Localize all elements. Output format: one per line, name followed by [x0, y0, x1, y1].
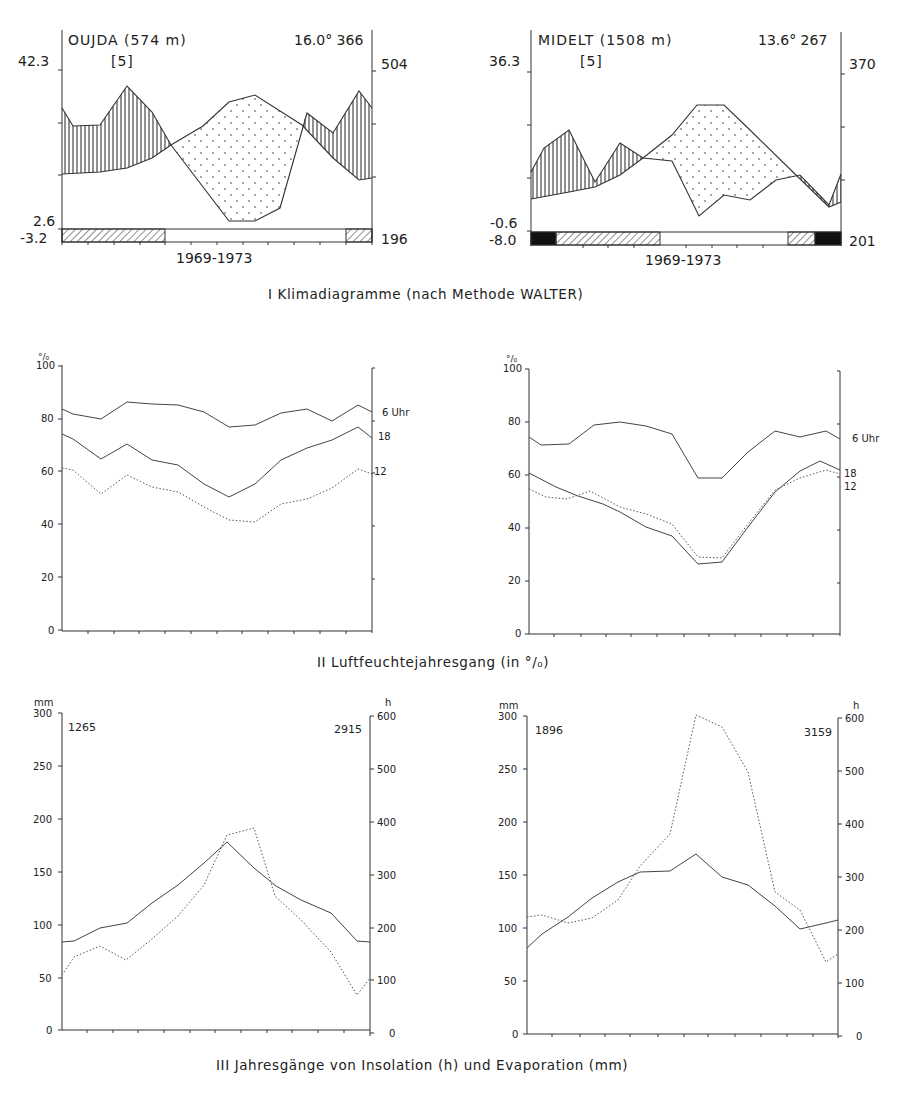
years-count-midelt: [5]	[580, 53, 603, 69]
y-tick-80: 80	[41, 413, 54, 424]
series-label-18-oujda: 18	[378, 431, 391, 442]
y2-tick-400: 400	[845, 819, 864, 830]
y-tick-20: 20	[41, 572, 54, 583]
series-label-12-midelt: 12	[844, 481, 857, 492]
y-tick-50: 50	[504, 976, 517, 987]
caption-humidity: II Luftfeuchtejahresgang (in °/₀)	[317, 654, 549, 670]
y-tick-150: 150	[33, 867, 52, 878]
y-tick-0: 0	[48, 625, 54, 636]
y2-tick-0: 0	[389, 1028, 395, 1039]
mean-values-midelt: 13.6° 267	[758, 32, 827, 48]
mean-values-oujda: 16.0° 366	[294, 32, 363, 48]
y2-tick-0: 0	[856, 1031, 862, 1042]
y-tick-20: 20	[508, 575, 521, 586]
y-tick-0: 0	[515, 628, 521, 639]
climate-diagram-oujda: OUJDA (574 m) [5] 16.0° 366 42.3 2.6 -3.…	[18, 30, 408, 266]
y-tick-60: 60	[508, 469, 521, 480]
y2-tick-500: 500	[845, 766, 864, 777]
y-tick-200: 200	[33, 814, 52, 825]
left-unit-mm-oujda: mm	[34, 697, 53, 708]
y-tick-200: 200	[498, 817, 517, 828]
right-unit-h-oujda: h	[385, 697, 391, 708]
right-top-label-oujda: 504	[381, 56, 408, 72]
y-tick-50: 50	[39, 973, 52, 984]
period-oujda: 1969-1973	[176, 250, 252, 266]
y-tick-100: 100	[36, 360, 55, 371]
insol-total-oujda-label: 2915	[334, 723, 362, 736]
max-temp-label-midelt: 36.3	[489, 53, 520, 69]
y2-tick-200: 200	[845, 925, 864, 936]
series-label-6uhr-oujda: 6 Uhr	[382, 407, 410, 418]
y2-tick-400: 400	[377, 817, 396, 828]
y2-tick-600: 600	[845, 713, 864, 724]
humidity-chart-oujda: °/₀ 100 80 60 40 20 0 6 Uhr 18 12	[36, 352, 410, 636]
insolation-chart-midelt: mm 300 250 200 150 100 50 0 h 600 500 40…	[498, 700, 864, 1042]
abs-min-label-midelt: -8.0	[489, 232, 516, 248]
right-bottom-label-midelt: 201	[849, 233, 876, 249]
series-label-6uhr-midelt: 6 Uhr	[852, 433, 880, 444]
y-tick-0: 0	[512, 1029, 518, 1040]
y-tick-300: 300	[33, 708, 52, 719]
y-tick-60: 60	[41, 466, 54, 477]
years-count-oujda: [5]	[111, 53, 134, 69]
right-top-label-midelt: 370	[849, 56, 876, 72]
left-unit-mm-midelt: mm	[499, 700, 518, 711]
y-tick-40: 40	[508, 522, 521, 533]
min-temp-label-oujda: 2.6	[33, 213, 55, 229]
y-tick-100: 100	[498, 923, 517, 934]
y2-tick-300: 300	[377, 870, 396, 881]
y-tick-150: 150	[498, 870, 517, 881]
evap-total-midelt: 1896	[535, 724, 563, 737]
series-label-12-oujda: 12	[374, 466, 387, 477]
caption-climate-diagrams: I Klimadiagramme (nach Methode WALTER)	[268, 286, 583, 302]
y2-tick-200: 200	[377, 923, 396, 934]
right-bottom-label-oujda: 196	[381, 231, 408, 247]
max-temp-label-oujda: 42.3	[18, 53, 49, 69]
series-label-18-midelt: 18	[844, 468, 857, 479]
humidity-chart-midelt: °/₀ 100 80 60 40 20 0 6 Uhr 18 12	[503, 354, 880, 639]
y-tick-0: 0	[46, 1025, 52, 1036]
y2-tick-100: 100	[377, 975, 396, 986]
y2-tick-100: 100	[845, 978, 864, 989]
y-tick-100: 100	[33, 920, 52, 931]
min-temp-label-midelt: -0.6	[490, 215, 517, 231]
y2-tick-600: 600	[377, 711, 396, 722]
station-name-oujda: OUJDA (574 m)	[68, 32, 187, 48]
y-tick-40: 40	[41, 519, 54, 530]
y-tick-250: 250	[498, 764, 517, 775]
y-tick-250: 250	[33, 761, 52, 772]
insolation-chart-oujda: mm 300 250 200 150 100 50 0 h 600 500 40…	[33, 697, 396, 1039]
y-tick-80: 80	[508, 416, 521, 427]
insol-total-midelt: 3159	[804, 726, 832, 739]
period-midelt: 1969-1973	[645, 252, 721, 268]
evap-total-oujda: 1265	[68, 721, 96, 734]
right-unit-h-midelt: h	[853, 700, 859, 711]
caption-insolation-evaporation: III Jahresgänge von Insolation (h) und E…	[216, 1057, 628, 1073]
y-tick-300: 300	[498, 711, 517, 722]
y2-tick-300: 300	[845, 872, 864, 883]
station-name-midelt: MIDELT (1508 m)	[538, 32, 672, 48]
climate-diagram-midelt: MIDELT (1508 m) [5] 13.6° 267 36.3 -0.6 …	[489, 30, 876, 268]
abs-min-label-oujda: -3.2	[20, 230, 47, 246]
y-tick-100: 100	[503, 363, 522, 374]
y2-tick-500: 500	[377, 764, 396, 775]
